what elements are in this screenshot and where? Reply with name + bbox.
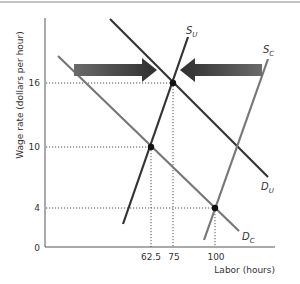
label-du: DU bbox=[261, 181, 274, 195]
y-tick-10: 10 bbox=[29, 142, 41, 152]
arrow-left-icon bbox=[180, 58, 262, 82]
y-axis-label: Wage rate (dollars per hour) bbox=[15, 31, 25, 159]
demand-curve-dc bbox=[58, 56, 239, 231]
guide-lines bbox=[46, 83, 215, 247]
point-competitive-equilibrium bbox=[212, 205, 218, 211]
arrow-right-icon bbox=[74, 58, 157, 82]
x-axis-label: Labor (hours) bbox=[214, 265, 275, 275]
x-tick-100: 100 bbox=[207, 252, 224, 262]
y-tick-4: 4 bbox=[34, 203, 40, 213]
x-tick-62-5: 62.5 bbox=[141, 252, 161, 262]
point-union-equilibrium bbox=[170, 80, 176, 86]
y-tick-0: 0 bbox=[34, 243, 40, 253]
x-tick-75: 75 bbox=[168, 252, 179, 262]
supply-curve-sc bbox=[204, 59, 268, 240]
demand-curve-du bbox=[110, 19, 268, 177]
label-dc: DC bbox=[242, 231, 255, 245]
y-tick-16: 16 bbox=[29, 78, 41, 88]
labor-market-chart: 16 10 4 0 62.5 75 100 Labor (hours) Wage… bbox=[0, 0, 300, 284]
label-sc: SC bbox=[263, 44, 274, 58]
label-su: SU bbox=[186, 25, 197, 39]
point-su-dc bbox=[148, 144, 154, 150]
